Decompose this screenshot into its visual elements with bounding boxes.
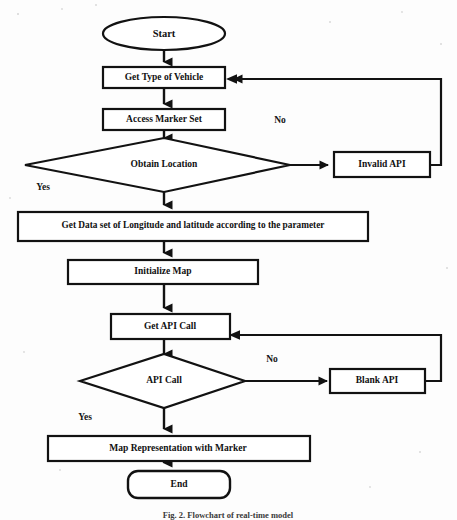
get-data-set-label: Get Data set of Longitude and latitude a… — [62, 220, 325, 230]
node-invalid-api[interactable]: Invalid API — [334, 152, 430, 177]
edge-label-obtain-location-yes: Yes — [36, 182, 50, 192]
node-blank-api[interactable]: Blank API — [330, 369, 425, 393]
node-map-representation[interactable]: Map Representation with Marker — [48, 436, 310, 461]
node-initialize-map[interactable]: Initialize Map — [68, 260, 258, 284]
start-label: Start — [153, 28, 176, 39]
blank-api-label: Blank API — [356, 375, 399, 385]
access-marker-set-label: Access Marker Set — [126, 114, 203, 124]
initialize-map-label: Initialize Map — [134, 266, 191, 276]
node-start[interactable]: Start — [103, 17, 225, 50]
invalid-api-label: Invalid API — [358, 159, 406, 169]
node-get-data-set[interactable]: Get Data set of Longitude and latitude a… — [18, 212, 368, 241]
map-representation-label: Map Representation with Marker — [109, 443, 247, 453]
api-call-label: API Call — [146, 375, 182, 385]
node-end[interactable]: End — [128, 471, 230, 498]
end-label: End — [171, 479, 189, 489]
get-api-call-label: Get API Call — [144, 321, 197, 331]
get-type-of-vehicle-label: Get Type of Vehicle — [125, 72, 204, 82]
figure-caption: Fig. 2. Flowchart of real-time model — [163, 510, 294, 520]
node-get-api-call[interactable]: Get API Call — [111, 314, 230, 339]
obtain-location-label: Obtain Location — [131, 159, 198, 169]
edge-label-api-call-no: No — [266, 354, 278, 364]
edge-label-obtain-location-no: No — [274, 115, 286, 125]
edge-label-api-call-yes: Yes — [78, 412, 92, 422]
node-access-marker-set[interactable]: Access Marker Set — [103, 109, 225, 130]
node-get-type-of-vehicle[interactable]: Get Type of Vehicle — [103, 67, 225, 88]
flowchart-diagram: Start Get Type of Vehicle Access Marker … — [0, 0, 457, 520]
